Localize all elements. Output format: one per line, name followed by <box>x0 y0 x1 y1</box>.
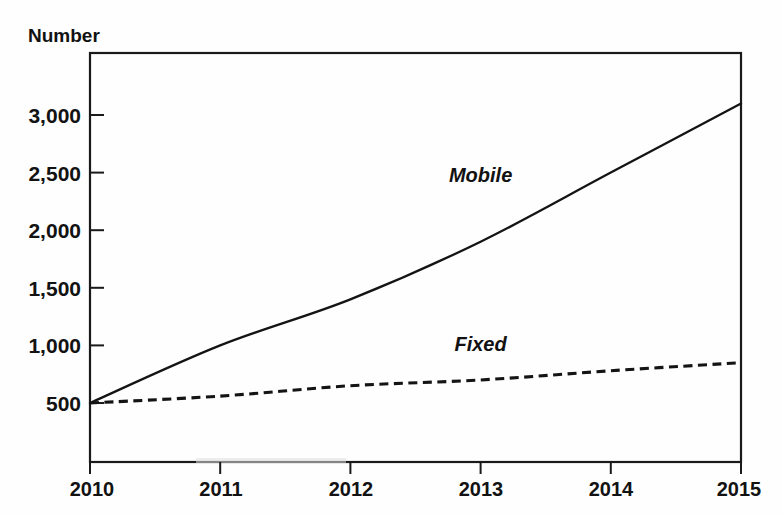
y-axis-ticks <box>90 115 104 403</box>
y-axis-caption: Number <box>28 25 100 46</box>
y-tick-label: 3,000 <box>28 104 81 127</box>
x-tick-label: 2014 <box>589 478 634 500</box>
y-tick-label: 1,500 <box>28 277 81 300</box>
y-tick-label: 500 <box>46 392 81 415</box>
x-tick-label: 2015 <box>717 478 762 500</box>
series-label-mobile: Mobile <box>449 164 512 186</box>
x-axis-tick-labels: 2010 2011 2012 2013 2014 2015 <box>70 478 762 500</box>
x-axis-ticks <box>90 462 741 474</box>
chart-canvas: Number 500 1,000 1,500 2,000 2,500 3,000 <box>0 0 782 515</box>
y-axis-tick-labels: 500 1,000 1,500 2,000 2,500 3,000 <box>28 104 81 415</box>
series-line-fixed <box>90 363 741 403</box>
series-label-fixed: Fixed <box>454 333 507 355</box>
x-tick-label: 2010 <box>70 478 115 500</box>
line-chart: Number 500 1,000 1,500 2,000 2,500 3,000 <box>0 0 782 515</box>
plot-frame <box>90 53 741 462</box>
y-tick-label: 2,000 <box>28 219 81 242</box>
y-tick-label: 2,500 <box>28 162 81 185</box>
x-tick-label: 2013 <box>459 478 504 500</box>
x-tick-label: 2012 <box>329 478 374 500</box>
x-tick-label: 2011 <box>199 478 242 500</box>
scan-smudge <box>196 458 346 463</box>
y-tick-label: 1,000 <box>28 334 81 357</box>
series-line-mobile <box>90 103 741 403</box>
